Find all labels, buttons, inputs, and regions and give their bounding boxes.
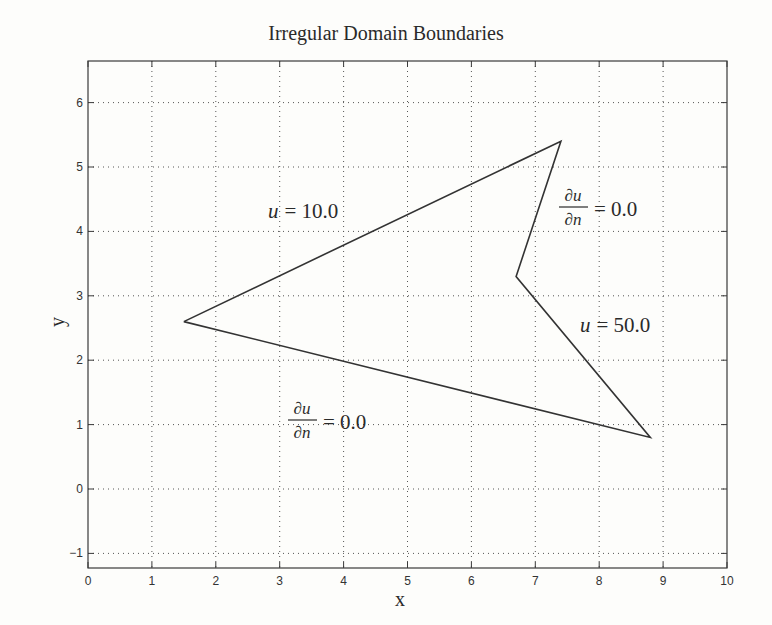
svg-text:∂n: ∂n (565, 210, 582, 229)
annotation-dudn-upper: ∂u ∂n = 0.0 (559, 186, 637, 229)
x-tick-label: 4 (340, 574, 347, 588)
annotation-dudn-lower: ∂u ∂n = 0.0 (288, 399, 366, 442)
x-tick-label: 5 (404, 574, 411, 588)
x-tick-label: 1 (149, 574, 156, 588)
x-axis-label: x (395, 588, 405, 610)
y-tick-label: −1 (69, 546, 83, 560)
y-tick-label: 5 (76, 160, 83, 174)
svg-text:u= 50.0: u= 50.0 (580, 313, 650, 337)
svg-text:u= 10.0: u= 10.0 (268, 199, 338, 223)
annotation-u-10: u= 10.0 (268, 199, 338, 223)
y-tick-label: 4 (76, 224, 83, 238)
y-axis-label: y (46, 317, 69, 327)
plot-area: 012345678910−10123456 x y u= 10.0 ∂u ∂n … (0, 0, 772, 625)
x-tick-label: 0 (85, 574, 92, 588)
annotation-u-50: u= 50.0 (580, 313, 650, 337)
y-tick-label: 6 (76, 96, 83, 110)
x-tick-label: 3 (276, 574, 283, 588)
x-tick-label: 7 (532, 574, 539, 588)
y-tick-label: 3 (76, 289, 83, 303)
x-tick-label: 10 (720, 574, 734, 588)
x-tick-label: 9 (660, 574, 667, 588)
y-tick-label: 0 (76, 482, 83, 496)
svg-text:∂n: ∂n (294, 423, 311, 442)
x-tick-label: 8 (596, 574, 603, 588)
svg-text:∂u: ∂u (294, 399, 311, 418)
y-tick-label: 1 (76, 418, 83, 432)
y-tick-label: 2 (76, 353, 83, 367)
svg-text:= 0.0: = 0.0 (594, 197, 637, 221)
x-tick-label: 6 (468, 574, 475, 588)
x-tick-label: 2 (212, 574, 219, 588)
svg-text:= 0.0: = 0.0 (323, 410, 366, 434)
svg-text:∂u: ∂u (565, 186, 582, 205)
